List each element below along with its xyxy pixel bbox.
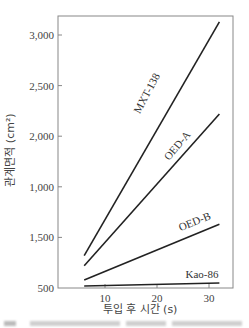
- series-label-oed-a: OED-A: [161, 128, 192, 162]
- x-tick-label: 30: [204, 292, 216, 304]
- y-tick-label: 500: [38, 282, 55, 294]
- y-tick-label: 2,000: [29, 130, 54, 142]
- x-axis-title: 투입 후 시간 (s): [103, 303, 178, 316]
- series-line-oed-a: [84, 114, 219, 266]
- caption-text-fragment: [126, 321, 166, 326]
- y-tick-label: 1,000: [29, 181, 54, 193]
- series-label-kao-86: Kao-86: [186, 268, 219, 280]
- plot-frame: [58, 16, 233, 288]
- caption-marker: [4, 321, 16, 326]
- y-tick-label: 3,000: [29, 29, 54, 41]
- y-tick-label: 2,500: [29, 80, 54, 92]
- y-tick-label: 1,500: [29, 231, 54, 243]
- x-axis-ticks: 102030: [100, 284, 216, 304]
- cropped-caption: [0, 318, 249, 328]
- series-label-mxt-138: MXT-138: [131, 71, 162, 116]
- y-axis-ticks: 5001,5001,0002,0002,5003,000: [29, 29, 62, 294]
- caption-text-fragment: [172, 321, 242, 326]
- caption-text-fragment: [30, 321, 120, 326]
- series-line-kao-86: [84, 283, 219, 286]
- line-chart: 5001,5001,0002,0002,5003,000 102030 MXT-…: [0, 0, 249, 328]
- y-axis-title: 관계면적 (cm²): [4, 113, 17, 186]
- series-lines: [84, 22, 219, 286]
- series-labels: MXT-138OED-AOED-BKao-86: [131, 71, 219, 280]
